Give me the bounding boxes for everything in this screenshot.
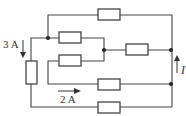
node-left — [46, 36, 50, 40]
label-3a: 3 A — [3, 38, 19, 50]
resistor-mid-lower — [59, 55, 81, 66]
node-right-upper — [169, 48, 173, 52]
arrow-down-icon — [20, 40, 26, 58]
label-2a: 2 A — [60, 93, 76, 105]
node-right-lower — [169, 82, 173, 86]
resistor-mid-right — [126, 44, 148, 55]
arrow-up-icon — [174, 55, 180, 73]
resistor-left — [26, 61, 37, 84]
resistor-mid-upper — [59, 32, 81, 43]
label-i: I — [180, 63, 186, 77]
wire-left-upper — [31, 38, 59, 61]
resistor-lower — [98, 79, 120, 90]
resistor-bottom — [98, 102, 120, 113]
wire-mid-junction — [81, 38, 104, 61]
node-mid — [102, 48, 106, 52]
wires — [31, 15, 172, 107]
circuit-diagram: 3 A 2 A I — [0, 0, 186, 116]
resistor-top — [98, 9, 120, 20]
